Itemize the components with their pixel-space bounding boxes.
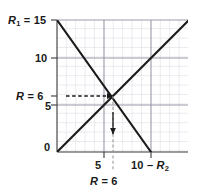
label-y-solution-value: = 6 [27, 90, 43, 102]
label-x-solution: R = 6 [90, 176, 118, 187]
label-r1-equals-15: R1 = 15 [8, 15, 46, 26]
chart-figure: R1 = 15 10 R = 6 5 0 5 10 – R2 R = 6 [0, 0, 197, 192]
label-x-solution-r: R [90, 175, 98, 187]
x-axis-r2-subscript: 2 [165, 164, 169, 173]
x-axis-label-r2: 10 – R2 [131, 160, 169, 171]
x-tick-label-5: 5 [95, 160, 101, 171]
y-tick-label-10: 10 [35, 53, 47, 64]
y-tick-label-5: 5 [45, 101, 51, 112]
label-r1-symbol: R [8, 14, 16, 26]
label-y-solution-r: R [16, 90, 24, 102]
label-r1-subscript: 1 [16, 19, 20, 28]
y-tick-label-0: 0 [44, 142, 50, 153]
label-y-solution: R = 6 [16, 91, 44, 102]
x-axis-dash: – [147, 159, 153, 171]
label-x-solution-value: = 6 [101, 175, 117, 187]
x-axis-r2-symbol: R [157, 159, 165, 171]
label-r1-value: = 15 [24, 14, 47, 26]
x-tick-label-10: 10 [131, 159, 144, 171]
